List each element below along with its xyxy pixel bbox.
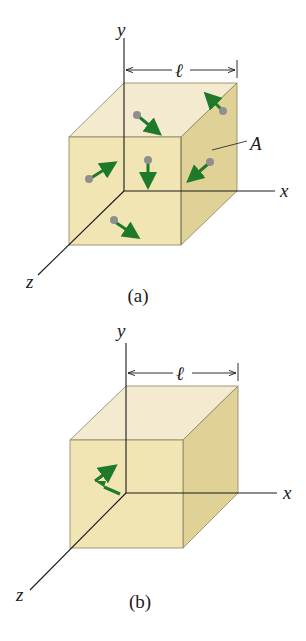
panel-b: y x z ℓ (b): [15, 320, 292, 613]
panel-a: y x z ℓ A (a): [25, 19, 289, 307]
x-axis-label: x: [279, 180, 289, 201]
face-label-A: A: [248, 133, 262, 154]
z-axis-label: z: [25, 271, 34, 292]
dimension-length-b: ℓ: [128, 363, 238, 384]
length-label: ℓ: [175, 60, 183, 81]
z-axis-label: z: [15, 584, 24, 605]
dimension-length-a: ℓ: [126, 60, 237, 81]
y-axis-label: y: [115, 320, 126, 341]
kinetic-theory-figure: y x z ℓ A (a): [0, 0, 306, 641]
molecule-dot: [85, 175, 93, 183]
molecule-dot: [133, 111, 141, 119]
caption-a: (a): [127, 285, 148, 307]
length-label: ℓ: [176, 363, 184, 384]
caption-b: (b): [129, 591, 151, 613]
molecule-dot: [219, 107, 227, 115]
molecule-dot: [206, 158, 214, 166]
y-axis-label: y: [115, 19, 126, 40]
molecule-dot: [110, 216, 118, 224]
x-axis-label: x: [282, 482, 292, 503]
molecule-dot: [144, 156, 152, 164]
